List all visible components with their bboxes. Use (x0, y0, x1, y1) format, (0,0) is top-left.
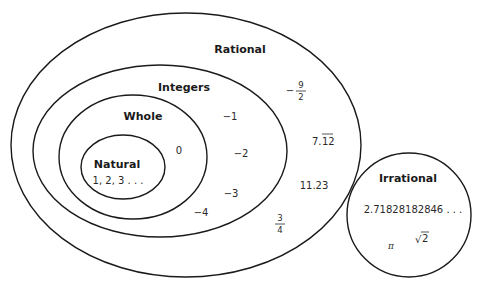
sqrt-radicand: 2 (422, 233, 428, 244)
integer-element: −4 (194, 207, 209, 218)
rational-element-decimal: 11.23 (300, 180, 329, 191)
whole-element: 0 (176, 145, 182, 156)
rational-ellipse (11, 13, 361, 277)
integer-element: −2 (234, 148, 249, 159)
minus-sign: − (286, 85, 294, 96)
rational-label: Rational (214, 43, 266, 56)
repeating-decimal-whole: 7. (312, 136, 322, 147)
natural-label: Natural (94, 158, 140, 171)
natural-elements: 1, 2, 3 . . . (93, 175, 144, 186)
integer-element: −1 (223, 111, 238, 122)
number-sets-venn-diagram: Rational − 9 2 7. 12 11.23 3 4 Integers … (0, 0, 480, 289)
numerator: 9 (298, 80, 303, 90)
repeating-decimal-digits: 12 (322, 136, 335, 147)
rational-element-repeating-decimal: 7. 12 (312, 134, 335, 147)
irrational-label: Irrational (379, 172, 437, 185)
irrational-element-sqrt-two: √ 2 (415, 232, 429, 245)
irrational-element-pi: π (387, 241, 395, 251)
integer-element: −3 (224, 188, 239, 199)
denominator: 2 (298, 92, 303, 102)
whole-set: Whole 0 (59, 95, 207, 219)
rational-element-neg-nine-halves: − 9 2 (286, 80, 306, 102)
integers-label: Integers (158, 81, 210, 94)
numerator: 3 (277, 213, 282, 223)
rational-element-three-quarters: 3 4 (275, 213, 285, 235)
whole-label: Whole (124, 110, 163, 123)
irrational-element-e: 2.71828182846 . . . (364, 204, 463, 215)
natural-set: Natural 1, 2, 3 . . . (81, 135, 165, 199)
denominator: 4 (277, 225, 282, 235)
rational-set: Rational − 9 2 7. 12 11.23 3 4 (11, 13, 361, 277)
irrational-set: Irrational 2.71828182846 . . . π √ 2 (347, 153, 471, 277)
sqrt-symbol: √ (415, 234, 422, 245)
